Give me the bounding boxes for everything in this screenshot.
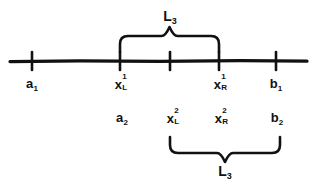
label-subscript: 1 [278, 84, 282, 93]
label-base: b [270, 76, 278, 91]
label-xR2: x2R [215, 110, 229, 126]
label-b2: b2 [271, 110, 284, 127]
label-script-stack: 1L [122, 76, 129, 89]
diagram-canvas [0, 0, 317, 190]
top-brace [120, 27, 219, 52]
label-xL2: x2L [167, 110, 181, 126]
label-base: x [214, 77, 221, 92]
bottom-brace [170, 137, 280, 162]
label-subscript: 2 [279, 118, 283, 127]
label-subscript: L [122, 83, 127, 92]
label-base: b [271, 110, 279, 125]
label-subscript: 2 [123, 118, 127, 127]
label-a2: a2 [116, 110, 128, 127]
label-subscript: 1 [33, 84, 37, 93]
label-superscript: 1 [221, 72, 225, 81]
label-b1: b1 [270, 76, 283, 93]
brace-group [120, 27, 280, 162]
interval-diagram-figure: a1x1Lx1Rb1 a2x2Lx2Rb2 L3 L3 [0, 0, 317, 190]
top-brace-label: L3 [163, 8, 177, 26]
brace-label-base: L [163, 8, 172, 24]
label-a1: a1 [26, 76, 38, 93]
number-line-group [10, 52, 307, 70]
label-base: x [215, 111, 222, 126]
label-subscript: R [221, 83, 227, 92]
label-superscript: 2 [222, 106, 226, 115]
label-xL1: x1L [115, 76, 129, 92]
label-script-stack: 1R [221, 76, 228, 89]
brace-label-subscript: 3 [172, 16, 177, 26]
label-superscript: 1 [122, 72, 126, 81]
label-base: x [115, 77, 122, 92]
number-line [10, 61, 307, 62]
label-base: x [167, 111, 174, 126]
label-subscript: R [222, 117, 228, 126]
label-superscript: 2 [174, 106, 178, 115]
label-subscript: L [174, 117, 179, 126]
label-xR1: x1R [214, 76, 228, 92]
label-script-stack: 2R [222, 110, 229, 123]
brace-label-subscript: 3 [227, 171, 232, 181]
label-script-stack: 2L [174, 110, 181, 123]
bottom-brace-label: L3 [218, 163, 232, 181]
brace-label-base: L [218, 163, 227, 179]
